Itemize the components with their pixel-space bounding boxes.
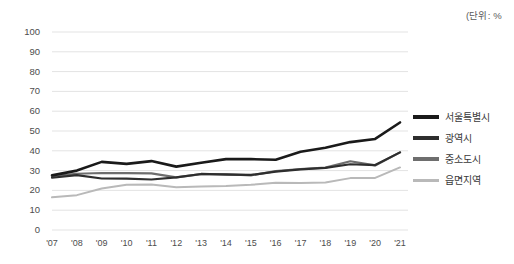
series-line bbox=[52, 122, 400, 175]
y-axis-tick-label: 70 bbox=[8, 86, 40, 96]
x-axis-tick-label: '12 bbox=[163, 238, 189, 248]
y-axis-tick-label: 50 bbox=[8, 126, 40, 136]
x-axis-tick-label: '11 bbox=[138, 238, 164, 248]
x-axis-tick-label: '18 bbox=[312, 238, 338, 248]
legend-swatch bbox=[413, 157, 439, 160]
y-axis-tick-label: 20 bbox=[8, 185, 40, 195]
x-axis-tick-label: '13 bbox=[188, 238, 214, 248]
legend-label: 서울특별시 bbox=[445, 112, 490, 123]
legend-label: 중소도시 bbox=[445, 154, 481, 165]
y-axis-tick-label: 100 bbox=[8, 27, 40, 37]
legend-swatch bbox=[413, 115, 439, 119]
legend-label: 광역시 bbox=[445, 133, 472, 144]
legend-swatch bbox=[413, 179, 439, 182]
y-axis-tick-label: 60 bbox=[8, 106, 40, 116]
legend-item[interactable]: 중소도시 bbox=[413, 150, 513, 168]
legend-label: 읍면지역 bbox=[445, 175, 481, 186]
x-axis-tick-label: '08 bbox=[64, 238, 90, 248]
legend-swatch bbox=[413, 136, 439, 139]
legend-item[interactable]: 서울특별시 bbox=[413, 108, 513, 126]
x-axis-tick-label: '15 bbox=[238, 238, 264, 248]
x-axis-tick-label: '10 bbox=[114, 238, 140, 248]
y-axis-tick-label: 80 bbox=[8, 67, 40, 77]
y-axis-tick-label: 40 bbox=[8, 146, 40, 156]
x-axis-tick-label: '19 bbox=[337, 238, 363, 248]
y-axis-tick-label: 90 bbox=[8, 47, 40, 57]
legend-item[interactable]: 광역시 bbox=[413, 129, 513, 147]
x-axis-tick-label: '16 bbox=[263, 238, 289, 248]
series-line bbox=[52, 152, 400, 179]
chart-container: (단위: % 1009080706050403020100 '07'08'09'… bbox=[0, 0, 514, 264]
y-axis-tick-label: 0 bbox=[8, 225, 40, 235]
x-axis-tick-label: '17 bbox=[288, 238, 314, 248]
x-axis-tick-label: '07 bbox=[39, 238, 65, 248]
x-axis-tick-label: '14 bbox=[213, 238, 239, 248]
x-axis-tick-label: '20 bbox=[362, 238, 388, 248]
legend-item[interactable]: 읍면지역 bbox=[413, 171, 513, 189]
x-axis-tick-label: '09 bbox=[89, 238, 115, 248]
chart-legend: 서울특별시광역시중소도시읍면지역 bbox=[413, 108, 513, 192]
y-axis-tick-label: 30 bbox=[8, 166, 40, 176]
x-axis-tick-label: '21 bbox=[387, 238, 413, 248]
y-axis-tick-label: 10 bbox=[8, 205, 40, 215]
